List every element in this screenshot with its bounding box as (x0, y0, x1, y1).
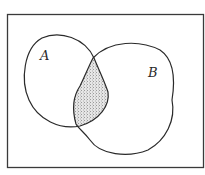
venn-diagram: A B (0, 0, 205, 175)
set-a-label: A (39, 48, 49, 63)
set-b-label: B (147, 65, 158, 80)
